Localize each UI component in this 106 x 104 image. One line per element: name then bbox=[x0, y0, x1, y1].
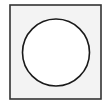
diagram-canvas bbox=[0, 0, 106, 104]
circle-shape bbox=[23, 19, 90, 86]
